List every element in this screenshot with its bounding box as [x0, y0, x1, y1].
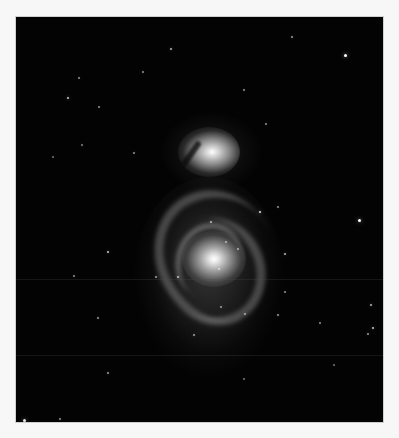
star: [225, 241, 227, 243]
star: [277, 314, 279, 316]
star: [142, 71, 144, 73]
star: [52, 156, 54, 158]
star: [319, 322, 321, 324]
companion-galaxy-halo: [161, 112, 261, 192]
star: [218, 268, 220, 270]
star: [284, 253, 286, 255]
star: [370, 304, 372, 306]
star: [265, 123, 267, 125]
star: [291, 36, 293, 38]
star: [243, 378, 245, 380]
star: [367, 333, 369, 335]
star: [344, 54, 347, 57]
star: [333, 364, 335, 366]
star: [210, 221, 212, 223]
star: [177, 276, 179, 278]
star: [244, 313, 246, 315]
star: [98, 106, 100, 108]
star: [372, 327, 375, 330]
star: [107, 372, 109, 374]
star: [259, 211, 262, 214]
star: [277, 206, 279, 208]
star: [133, 152, 135, 154]
star: [220, 306, 222, 308]
star: [97, 317, 99, 319]
star: [358, 219, 361, 222]
star: [243, 89, 245, 91]
dust-lane: [180, 140, 202, 168]
star: [23, 419, 26, 422]
star: [81, 144, 83, 146]
star: [284, 291, 286, 293]
star: [155, 276, 157, 278]
star: [170, 48, 172, 50]
star: [237, 248, 239, 250]
star: [73, 275, 75, 277]
galaxy-image: [15, 16, 384, 423]
scan-artifact: [16, 355, 383, 356]
star: [107, 251, 110, 254]
star: [59, 418, 61, 420]
star: [78, 77, 80, 79]
star: [67, 97, 70, 100]
scan-artifact: [16, 279, 383, 280]
star: [193, 334, 195, 336]
